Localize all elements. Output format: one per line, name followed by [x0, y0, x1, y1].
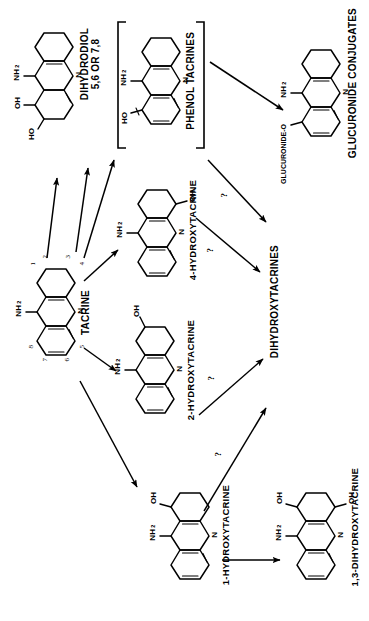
node-label-13-dihydroxytacrine: 1,3-DIHYDROXYTACRINE: [350, 468, 360, 586]
atom-label-nh2: NH2: [115, 223, 124, 238]
arrow-2hydroxy-to-dihydroxytacrines: [199, 359, 263, 415]
node-label-phenol-tacrines: PHENOL TACRINES: [186, 32, 197, 130]
arrow-tacrine-to-2-hydroxytacrine: [84, 348, 116, 371]
arrow-phenol-to-glucuronide: [210, 62, 283, 110]
annotation-question-mark: ?: [213, 452, 223, 457]
atom-label-nh2: NH2: [274, 526, 283, 541]
atom-label-n: N: [336, 532, 345, 538]
atom-label-nh2: NH2: [14, 302, 23, 317]
annotation-question-mark: ?: [205, 248, 215, 253]
atom-label-nh2: NH2: [119, 71, 128, 86]
arrow-tacrine-to-phenol-tacrines: [84, 160, 114, 258]
structure-dihydrodiol: [24, 33, 73, 129]
arrow-tacrine-to-4-hydroxytacrine: [84, 250, 118, 281]
ring-position-6: 6: [63, 358, 71, 362]
atom-label-nh2: NH2: [113, 360, 122, 375]
arrow-tacrine-to-dihydrodiol-a: [47, 178, 57, 258]
arrow-4hydroxy-to-dihydroxytacrines: [196, 218, 260, 272]
atom-label-oh: OH: [13, 97, 22, 109]
arrow-phenol-to-dihydroxytacrines: [208, 160, 266, 222]
arrow-tacrine-to-1-hydroxytacrine: [80, 381, 137, 487]
atom-label-nh2: NH2: [148, 526, 157, 541]
node-label-dihydrodiol: DIHYDRODIOL 5,6 OR 7,8: [80, 28, 101, 100]
atom-label-nh2: NH2: [279, 83, 288, 98]
atom-label-ho: HO: [27, 128, 36, 140]
arrow-1hydroxy-to-dihydroxytacrines: [204, 408, 266, 511]
annotation-question-mark: ?: [206, 376, 216, 381]
node-label-2-hydroxytacrine: 2-HYDROXYTACRINE: [186, 320, 196, 420]
structure-glucuronide: [291, 50, 340, 136]
atom-label-n: N: [177, 229, 186, 235]
atom-label-oh: OH: [149, 492, 158, 504]
pathway-diagram: NH2 N OH HO NH2 N HO NH2 N GLUCURONIDE-O…: [0, 0, 369, 621]
ring-position-2: 2: [41, 255, 49, 259]
ring-position-3: 3: [64, 255, 72, 259]
atom-label-glucuronide-o: GLUCURONIDE-O: [280, 124, 287, 184]
atom-label-ho: HO: [120, 112, 129, 124]
structure-tacrine: [26, 269, 75, 355]
ring-position-7: 7: [41, 358, 49, 362]
atom-label-nh2: NH2: [12, 66, 21, 81]
atom-label-oh: OH: [132, 305, 141, 317]
node-label-glucuronide-conjugates: GLUCURONIDE CONJUGATES: [348, 8, 359, 158]
node-label-1-hydroxytacrine: 1-HYDROXYTACRINE: [221, 485, 231, 585]
ring-position-4: 4: [78, 262, 86, 266]
node-label-tacrine: TACRINE: [81, 290, 92, 335]
atom-label-n: N: [210, 532, 219, 538]
ring-position-8: 8: [27, 345, 35, 349]
annotation-question-mark: ?: [219, 193, 229, 198]
arrow-tacrine-to-dihydrodiol-b: [76, 168, 88, 252]
ring-position-1: 1: [29, 262, 37, 266]
structure-2-hydroxytacrine: [125, 317, 174, 413]
ring-position-5: 5: [78, 345, 86, 349]
node-label-dihydroxytacrines: DIHYDROXYTACRINES: [270, 245, 281, 358]
atom-label-oh: OH: [275, 492, 284, 504]
node-label-4-hydroxytacrine: 4-HYDROXYTACRINE: [188, 180, 198, 280]
dihydrodiol-line1: DIHYDRODIOL: [79, 28, 90, 100]
dihydrodiol-line2: 5,6 OR 7,8: [90, 39, 101, 89]
atom-label-n: N: [175, 366, 184, 372]
structure-1-hydroxytacrine: [160, 493, 209, 579]
